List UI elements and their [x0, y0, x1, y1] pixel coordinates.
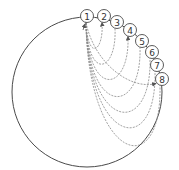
- node-label: 1: [84, 12, 90, 22]
- node-label: 5: [139, 37, 145, 47]
- node-label: 8: [159, 75, 165, 85]
- node-7: 7: [151, 59, 164, 72]
- node-4: 4: [124, 24, 137, 37]
- node-label: 7: [154, 61, 160, 71]
- node-label: 6: [149, 48, 155, 58]
- node-label: 3: [114, 18, 120, 28]
- return-arrow-to-node-1: [83, 24, 85, 30]
- edge-1-to-3: [86, 23, 115, 65]
- diagram-canvas: 12345678: [0, 0, 179, 170]
- node-6: 6: [146, 46, 159, 59]
- node-5: 5: [136, 35, 149, 48]
- node-2: 2: [98, 10, 111, 23]
- node-label: 2: [101, 12, 107, 22]
- node-label: 4: [127, 26, 133, 36]
- sequence-diagram: 12345678: [0, 0, 179, 170]
- node-1: 1: [81, 10, 94, 23]
- node-8: 8: [156, 73, 169, 86]
- node-3: 3: [111, 16, 124, 29]
